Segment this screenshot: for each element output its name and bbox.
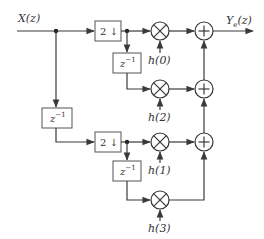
decimator-top-label: 2 ↓ bbox=[100, 26, 118, 37]
multiplier-h0 bbox=[151, 22, 169, 40]
delay-block-bottom: z−1 bbox=[113, 161, 141, 181]
multiplier-h3 bbox=[151, 191, 169, 209]
coef-h3-label: h(3) bbox=[148, 222, 171, 235]
adder-top bbox=[195, 22, 213, 40]
wire-to-m3 bbox=[127, 181, 150, 200]
output-label: Ye(z) bbox=[226, 14, 252, 29]
delayed-input-wire bbox=[56, 128, 94, 142]
adder-bottom bbox=[195, 133, 213, 151]
coef-h0-label: h(0) bbox=[148, 54, 171, 67]
delay-block-top: z−1 bbox=[113, 53, 141, 73]
coef-h1-label: h(1) bbox=[148, 164, 171, 177]
wire-m3-to-a2 bbox=[169, 152, 204, 200]
decimator-bottom: 2 ↓ bbox=[95, 132, 121, 152]
multiplier-h1 bbox=[151, 133, 169, 151]
polyphase-filter-diagram: X(z) z−1 2 ↓ z−1 2 ↓ z−1 h(0) bbox=[0, 0, 264, 239]
multiplier-h2 bbox=[151, 80, 169, 98]
input-label: X(z) bbox=[17, 12, 40, 25]
adder-middle bbox=[195, 80, 213, 98]
decimator-bottom-label: 2 ↓ bbox=[100, 137, 118, 148]
decimator-top: 2 ↓ bbox=[95, 21, 121, 41]
wire-to-m2 bbox=[127, 73, 150, 89]
delay-block-input: z−1 bbox=[42, 108, 72, 128]
coef-h2-label: h(2) bbox=[148, 111, 171, 124]
